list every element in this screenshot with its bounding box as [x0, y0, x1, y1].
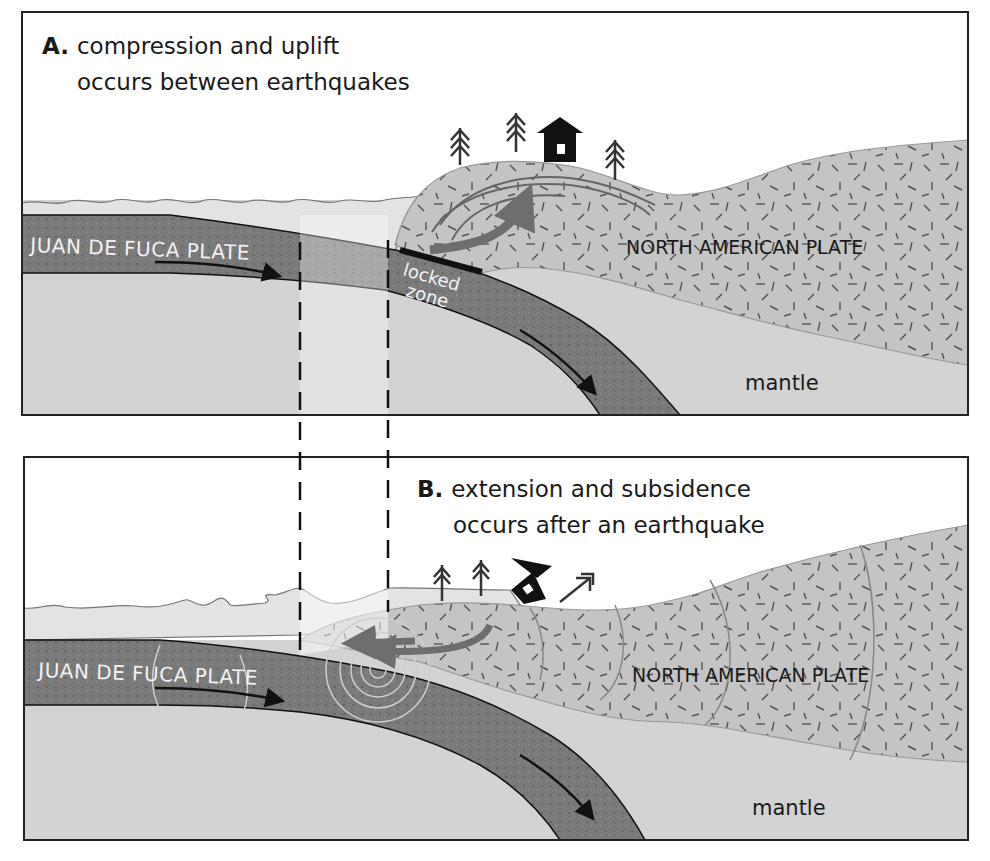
panel-b: B.extension and subsidence occurs after …: [24, 457, 968, 840]
panel-a: A.compression and uplift occurs between …: [22, 12, 968, 415]
panel-a-caption-line1: compression and uplift: [77, 33, 339, 59]
svg-text:A.compression and uplift: A.compression and uplift: [42, 33, 339, 59]
subduction-diagram: A.compression and uplift occurs between …: [0, 0, 990, 861]
panel-b-caption-line1: extension and subsidence: [451, 476, 751, 502]
north-american-label: NORTH AMERICAN PLATE: [632, 664, 869, 686]
panel-b-letter: B.: [417, 476, 443, 502]
panel-a-letter: A.: [42, 33, 69, 59]
panel-b-caption-line2: occurs after an earthquake: [453, 512, 765, 538]
mantle-label: mantle: [752, 796, 826, 820]
panel-a-caption-line2: occurs between earthquakes: [77, 69, 410, 95]
svg-text:B.extension and subsidence: B.extension and subsidence: [417, 476, 751, 502]
mantle-label: mantle: [745, 371, 819, 395]
north-american-label: NORTH AMERICAN PLATE: [626, 236, 863, 258]
rebound-arrow: [355, 641, 415, 643]
